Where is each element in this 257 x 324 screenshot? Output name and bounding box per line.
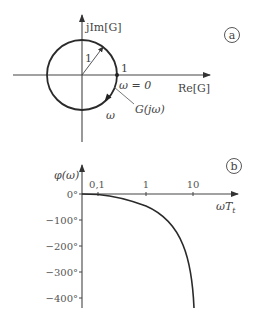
x-tick-label-2: 10 [187, 179, 200, 190]
panel-b: 0,1 1 10 0° −100° −200° −300° −400° φ(ω)… [46, 159, 242, 309]
radius-label: 1 [85, 52, 92, 65]
diagram-canvas: jIm[G] Re[G] 1 1 ω = 0 G(jω) ω a 0,1 1 1… [0, 0, 257, 324]
panel-a: jIm[G] Re[G] 1 1 ω = 0 G(jω) ω a [13, 15, 240, 142]
badge-a-label: a [229, 29, 236, 42]
curve-label: G(jω) [135, 103, 165, 116]
intercept-label: 1 [121, 62, 128, 75]
x-tick-label-0: 0,1 [89, 179, 105, 190]
y-tick-label-4: −400° [46, 293, 78, 304]
y-axis-label-b: φ(ω) [54, 169, 79, 182]
y-tick-label-2: −200° [46, 241, 78, 252]
direction-label: ω [106, 109, 115, 122]
x-axis-label-a: Re[G] [178, 82, 210, 95]
badge-b-label: b [230, 160, 237, 173]
start-point-dot [115, 73, 119, 77]
y-tick-label-1: −100° [46, 215, 78, 226]
y-tick-label-0: 0° [67, 189, 78, 200]
start-label: ω = 0 [119, 79, 151, 92]
x-axis-label-b: ωTt [216, 200, 236, 215]
y-axis-label-a: jIm[G] [84, 21, 122, 34]
y-tick-label-3: −300° [46, 267, 78, 278]
x-tick-label-1: 1 [143, 179, 149, 190]
phase-curve [82, 194, 194, 308]
